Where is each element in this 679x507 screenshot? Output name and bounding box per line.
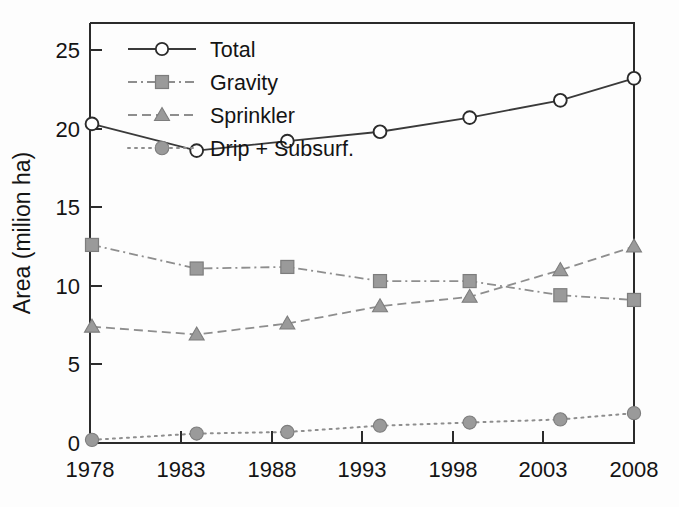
legend-entry-gravity: Gravity bbox=[128, 71, 278, 95]
filled-square-icon bbox=[156, 76, 169, 89]
y-tick-labels: 0 5 10 15 20 25 bbox=[56, 38, 80, 456]
data-point-filled-square bbox=[628, 293, 641, 306]
series-line bbox=[92, 247, 634, 335]
x-tick-label-2008: 2008 bbox=[610, 457, 659, 482]
data-point-filled-square bbox=[374, 275, 387, 288]
legend-label-total: Total bbox=[210, 38, 255, 62]
legend-entry-sprinkler: Sprinkler bbox=[128, 104, 295, 128]
data-point-filled-square bbox=[463, 275, 476, 288]
y-tick-label-15: 15 bbox=[56, 195, 80, 220]
legend-entry-total: Total bbox=[128, 38, 255, 62]
y-axis-title: Area (milion ha) bbox=[9, 152, 35, 314]
data-point-filled-square bbox=[86, 238, 99, 251]
data-point-open-circle bbox=[463, 111, 476, 124]
data-point-filled-square bbox=[190, 262, 203, 275]
data-series-layer bbox=[85, 72, 642, 447]
data-point-open-circle bbox=[628, 72, 641, 85]
legend-entry-drip-subsurf: Drip + Subsurf. bbox=[128, 137, 354, 161]
y-tick-label-25: 25 bbox=[56, 38, 80, 63]
x-tick-label-1988: 1988 bbox=[248, 457, 297, 482]
plot-frame bbox=[90, 23, 634, 443]
filled-circle-icon bbox=[155, 141, 169, 155]
chart-figure: 0 5 10 15 20 25 Area (milion ha) 1978 19… bbox=[0, 0, 679, 507]
data-point-filled-circle bbox=[190, 427, 203, 440]
open-circle-icon bbox=[156, 43, 168, 55]
y-tick-label-10: 10 bbox=[56, 274, 80, 299]
data-point-filled-circle bbox=[627, 407, 640, 420]
y-tick-label-20: 20 bbox=[56, 117, 80, 142]
legend-label-gravity: Gravity bbox=[210, 71, 278, 95]
data-point-open-circle bbox=[190, 144, 203, 157]
x-tick-label-2003: 2003 bbox=[519, 457, 568, 482]
data-point-filled-square bbox=[281, 260, 294, 273]
legend-label-sprinkler: Sprinkler bbox=[210, 104, 295, 128]
data-point-filled-circle bbox=[463, 416, 476, 429]
data-point-filled-circle bbox=[281, 425, 294, 438]
x-tick-label-1993: 1993 bbox=[338, 457, 387, 482]
filled-triangle-icon bbox=[155, 108, 170, 121]
line-chart: 0 5 10 15 20 25 Area (milion ha) 1978 19… bbox=[0, 0, 679, 507]
x-axis-ticks bbox=[90, 431, 634, 443]
chart-legend: Total Gravity Sprinkler Drip + Subsurf. bbox=[128, 38, 354, 161]
x-tick-label-1978: 1978 bbox=[66, 457, 115, 482]
data-point-open-circle bbox=[374, 125, 387, 138]
y-tick-label-0: 0 bbox=[68, 431, 80, 456]
data-point-open-circle bbox=[554, 94, 567, 107]
x-tick-label-1983: 1983 bbox=[157, 457, 206, 482]
y-tick-label-5: 5 bbox=[68, 352, 80, 377]
data-point-filled-triangle bbox=[627, 239, 642, 252]
x-tick-label-1998: 1998 bbox=[429, 457, 478, 482]
data-point-filled-circle bbox=[554, 413, 567, 426]
data-point-filled-circle bbox=[373, 419, 386, 432]
data-point-filled-circle bbox=[85, 433, 98, 446]
data-point-filled-square bbox=[554, 289, 567, 302]
data-point-open-circle bbox=[86, 117, 99, 130]
data-point-filled-triangle bbox=[85, 319, 100, 332]
x-tick-labels: 1978 1983 1988 1993 1998 2003 2008 bbox=[66, 457, 659, 482]
legend-label-drip-subsurf: Drip + Subsurf. bbox=[210, 137, 354, 161]
